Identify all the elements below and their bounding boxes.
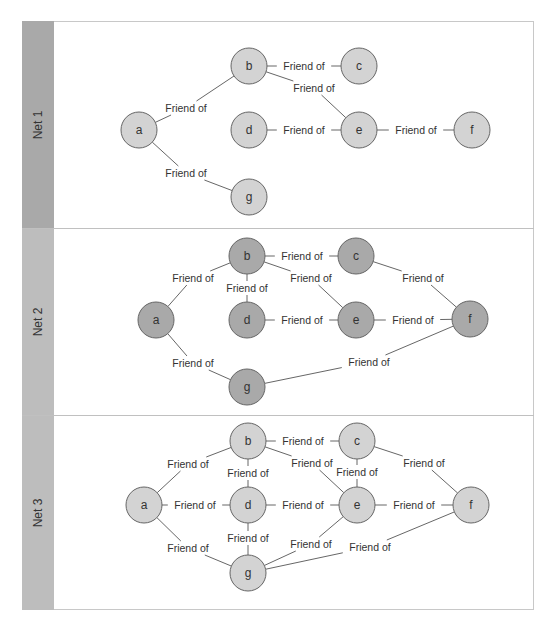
node-f[interactable]: f <box>454 112 490 148</box>
edge-line <box>319 517 343 537</box>
edge-label: Friend of <box>290 272 332 284</box>
edge-line <box>205 555 232 566</box>
node-c[interactable]: c <box>338 238 374 274</box>
edge-line <box>264 551 295 565</box>
edge-label: Friend of <box>282 499 324 511</box>
node-d[interactable]: d <box>229 302 265 338</box>
edge-label: Friend of <box>336 466 378 478</box>
node-g[interactable]: g <box>230 555 266 591</box>
edge-line <box>373 262 402 271</box>
edge-line <box>209 370 231 380</box>
edge-line <box>432 470 458 493</box>
edge-line <box>204 180 232 191</box>
edge-line <box>206 447 231 457</box>
edge-label: Friend of <box>281 250 323 262</box>
edge-label: Friend of <box>283 60 325 72</box>
node-b[interactable]: b <box>231 48 267 84</box>
edge-line <box>157 518 181 541</box>
edge-label: Friend of <box>227 467 269 479</box>
node-label: d <box>244 313 251 327</box>
edge-line <box>152 142 178 166</box>
edge-label: Friend of <box>393 499 435 511</box>
edge-line <box>374 447 403 456</box>
edge-line <box>210 263 230 271</box>
edge-line <box>266 553 343 569</box>
edge-label: Friend of <box>172 357 214 369</box>
graph-net-1: Friend ofFriend ofFriend ofFriend ofFrie… <box>121 48 490 215</box>
network-graph: Friend ofFriend ofFriend ofFriend ofFrie… <box>0 0 549 624</box>
edge-line <box>431 285 456 307</box>
node-label: c <box>354 434 360 448</box>
edge-line <box>155 115 171 122</box>
edge-label: Friend of <box>403 457 445 469</box>
node-label: b <box>245 434 252 448</box>
edge-label: Friend of <box>395 124 437 136</box>
node-label: a <box>153 313 160 327</box>
edge-label: Friend of <box>349 541 391 553</box>
edge-line <box>197 76 235 101</box>
edge-line <box>387 512 455 540</box>
edge-label: Friend of <box>172 272 214 284</box>
node-c[interactable]: c <box>341 48 377 84</box>
node-label: a <box>136 123 143 137</box>
edge-label: Friend of <box>348 356 390 368</box>
edge-label: Friend of <box>402 272 444 284</box>
edge-line <box>264 262 291 271</box>
edge-line <box>168 334 187 356</box>
edge-label: Friend of <box>165 102 207 114</box>
node-a[interactable]: a <box>126 487 162 523</box>
node-label: e <box>354 498 361 512</box>
edge-line <box>266 72 293 81</box>
node-label: a <box>141 498 148 512</box>
node-b[interactable]: b <box>229 238 265 274</box>
node-f[interactable]: f <box>452 301 488 337</box>
edge-line <box>322 95 346 118</box>
edge-label: Friend of <box>167 458 209 470</box>
node-g[interactable]: g <box>229 369 265 405</box>
node-e[interactable]: e <box>338 302 374 338</box>
edge-line <box>319 285 343 308</box>
edge-line <box>157 471 180 493</box>
node-d[interactable]: d <box>230 487 266 523</box>
edge-label: Friend of <box>392 314 434 326</box>
edge-label: Friend of <box>167 542 209 554</box>
node-f[interactable]: f <box>453 487 489 523</box>
edge-label: Friend of <box>227 532 269 544</box>
node-label: g <box>245 566 252 580</box>
node-d[interactable]: d <box>231 112 267 148</box>
node-label: d <box>246 123 253 137</box>
edge-label: Friend of <box>165 167 207 179</box>
node-label: e <box>353 313 360 327</box>
edge-label: Friend of <box>281 314 323 326</box>
node-label: d <box>245 498 252 512</box>
edge-label: Friend of <box>174 499 216 511</box>
node-a[interactable]: a <box>138 302 174 338</box>
edge-line <box>385 326 453 355</box>
node-g[interactable]: g <box>231 179 267 215</box>
edge-label: Friend of <box>283 124 325 136</box>
edge-label: Friend of <box>293 82 335 94</box>
edge-label: Friend of <box>226 282 268 294</box>
node-c[interactable]: c <box>339 423 375 459</box>
node-label: b <box>244 249 251 263</box>
edge-label: Friend of <box>290 538 332 550</box>
edge-line <box>265 447 292 456</box>
node-a[interactable]: a <box>121 112 157 148</box>
edge-label: Friend of <box>291 457 333 469</box>
node-label: g <box>246 190 253 204</box>
edge-line <box>265 368 342 384</box>
edge-line <box>168 285 187 306</box>
edge-label: Friend of <box>282 435 324 447</box>
graph-net-3: Friend ofFriend ofFriend ofFriend ofFrie… <box>126 423 489 591</box>
node-e[interactable]: e <box>341 112 377 148</box>
node-label: c <box>356 59 362 73</box>
node-b[interactable]: b <box>230 423 266 459</box>
node-label: b <box>246 59 253 73</box>
node-label: e <box>356 123 363 137</box>
node-label: c <box>353 249 359 263</box>
node-label: g <box>244 380 251 394</box>
graph-net-2: Friend ofFriend ofFriend ofFriend ofFrie… <box>138 238 488 405</box>
node-e[interactable]: e <box>339 487 375 523</box>
